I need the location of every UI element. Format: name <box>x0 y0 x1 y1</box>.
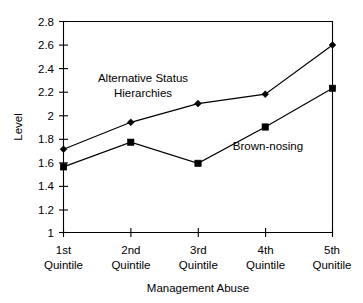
y-tick-label: 1.8 <box>38 133 54 145</box>
annotation-alternative-status-hierarchies-line2: Hierarchies <box>114 87 172 99</box>
y-tick-label: 2.4 <box>38 63 55 75</box>
series-line <box>64 45 333 149</box>
y-tick-label: 1 <box>48 227 54 239</box>
x-tick-labels: 1st Quintile 2nd Quintile 3rd Quintile 4… <box>44 244 352 271</box>
data-point-diamond <box>127 119 134 126</box>
data-point-diamond <box>60 146 67 153</box>
annotation-brown-nosing: Brown-nosing <box>233 140 303 152</box>
y-tick-label: 2.2 <box>38 86 54 98</box>
data-point-square <box>60 164 66 170</box>
y-tick-labels: 2.8 2.6 2.4 2.2 2 1.8 1.6 1.4 1.2 1 <box>38 16 55 239</box>
data-point-square <box>195 160 201 166</box>
data-point-square <box>329 85 335 91</box>
x-axis-title: Management Abuse <box>147 282 249 294</box>
chart-axes <box>64 21 334 233</box>
data-point-diamond <box>195 100 202 107</box>
series-alternative-status-hierarchies <box>60 42 336 153</box>
x-tick-label-1st: 1st <box>56 244 72 256</box>
y-tick-label: 1.4 <box>38 180 55 192</box>
y-tick-label: 2 <box>48 110 54 122</box>
x-tick-label-1st-line2: Quintile <box>44 259 83 271</box>
series-brown-nosing <box>60 85 335 170</box>
x-tick-label-2nd: 2nd <box>121 244 140 256</box>
chart-container: 2.8 2.6 2.4 2.2 2 1.8 1.6 1.4 1.2 1 Leve… <box>0 0 363 303</box>
data-point-square <box>262 124 268 130</box>
x-tick-label-3rd-line2: Quintile <box>179 259 218 271</box>
y-tick-label: 2.8 <box>38 16 54 28</box>
data-point-square <box>128 139 134 145</box>
y-tick-label: 1.2 <box>38 204 54 216</box>
line-chart: 2.8 2.6 2.4 2.2 2 1.8 1.6 1.4 1.2 1 Leve… <box>0 0 363 303</box>
y-axis-title: Level <box>12 113 24 141</box>
x-tick-label-2nd-line2: Quintile <box>111 259 150 271</box>
x-tick-label-3rd: 3rd <box>190 244 207 256</box>
y-tick-label: 2.6 <box>38 39 54 51</box>
y-tick-label: 1.6 <box>38 157 54 169</box>
x-tick-label-5th-line2: Qunitile <box>313 259 352 271</box>
annotation-alternative-status-hierarchies: Alternative Status <box>98 72 188 84</box>
x-tick-label-4th: 4th <box>258 244 274 256</box>
x-tick-label-4th-line2: Quintile <box>246 259 285 271</box>
x-tick-label-5th: 5th <box>324 244 340 256</box>
